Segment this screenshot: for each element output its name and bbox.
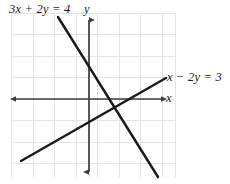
coordinate-plane-svg <box>0 0 230 184</box>
graph-figure: 3x + 2y = 4 x − 2y = 3 x y <box>0 0 230 184</box>
equation-label-x-minus-2y-equals-3: x − 2y = 3 <box>167 70 222 85</box>
equation-label-3x-plus-2y-equals-4: 3x + 2y = 4 <box>9 2 70 17</box>
line-x-minus-2y-equals-3 <box>21 78 166 161</box>
line-3x-plus-2y-equals-4 <box>58 17 158 177</box>
y-axis-label: y <box>84 2 90 17</box>
x-axis-label: x <box>166 91 172 106</box>
